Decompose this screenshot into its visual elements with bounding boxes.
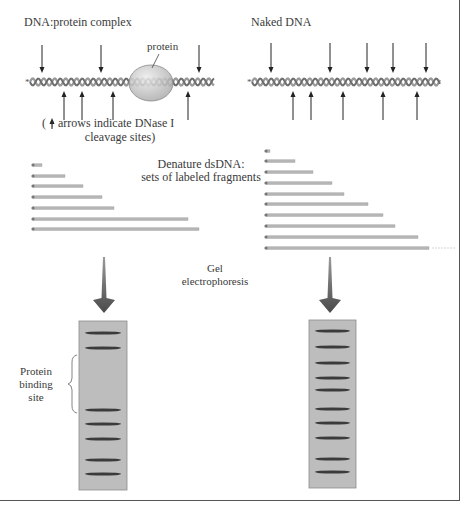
gel-band <box>85 422 121 425</box>
gel-band <box>85 472 121 475</box>
binding-site-label-line2: binding <box>16 378 56 391</box>
right-dna-helix: * <box>247 77 440 87</box>
gel-band <box>315 407 350 410</box>
gel-band <box>315 329 350 332</box>
dna-fragment <box>266 214 383 217</box>
gel-band <box>315 376 350 379</box>
gel-band <box>315 457 350 460</box>
dna-fragment <box>266 193 344 196</box>
denature-label-line2: sets of labeled fragments <box>126 171 276 184</box>
binding-site-brace <box>68 355 77 413</box>
gel-band <box>85 437 121 440</box>
legend-text-line2: cleavage sites) <box>70 131 170 144</box>
left-dna-helix: * <box>25 77 214 87</box>
protein-label: protein <box>147 40 178 53</box>
gel-label-line2: electrophoresis <box>170 275 260 288</box>
gel-band <box>85 346 121 349</box>
dna-fragment <box>266 160 295 163</box>
right-fragments <box>264 149 456 249</box>
gel-label-line1: Gel <box>180 262 250 275</box>
dna-fragment <box>266 225 395 228</box>
gel-band <box>85 331 121 334</box>
dna-fragment <box>266 236 418 239</box>
protein-ellipse <box>129 65 173 101</box>
gel-band <box>85 458 121 461</box>
right-gel-lane <box>309 320 356 488</box>
frame-bottom-border <box>0 500 460 501</box>
gel-band <box>315 421 350 424</box>
dna-fragment <box>33 175 65 178</box>
gel-band <box>315 345 350 348</box>
left-gel-lane <box>79 321 127 490</box>
dna-fragment <box>33 218 188 221</box>
right-cleavage-arrows <box>269 43 429 120</box>
right-panel-title: Naked DNA <box>251 16 311 29</box>
gel-band <box>315 436 350 439</box>
label-marker: * <box>25 77 30 87</box>
left-panel-title: DNA:protein complex <box>24 16 132 29</box>
label-marker: * <box>247 77 252 87</box>
dnase-footprinting-diagram: * * <box>0 0 466 508</box>
legend-text-line1: ( ↑ arrows indicate DNase I <box>42 117 174 130</box>
gel-band <box>315 388 350 391</box>
dna-fragment <box>33 228 199 231</box>
gel-band <box>315 470 350 473</box>
binding-site-label-line3: site <box>16 391 56 404</box>
gel-band <box>85 408 121 411</box>
dna-fragment <box>266 203 368 206</box>
binding-site-label-line1: Protein <box>16 365 56 378</box>
dna-fragment <box>33 207 114 210</box>
dna-fragment <box>33 196 102 199</box>
frame-right-border <box>459 0 460 501</box>
dna-fragment <box>33 185 83 188</box>
dna-fragment <box>266 247 429 250</box>
gel-band <box>315 361 350 364</box>
